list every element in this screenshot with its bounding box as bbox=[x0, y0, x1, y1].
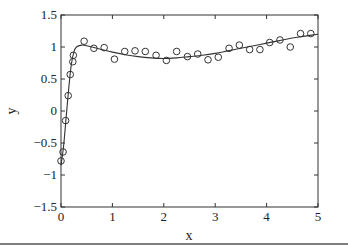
plot-frame bbox=[61, 15, 318, 207]
data-point-marker bbox=[70, 58, 77, 65]
plot-area bbox=[58, 15, 318, 207]
y-tick-label: −0.5 bbox=[33, 135, 57, 150]
data-point-marker bbox=[297, 30, 304, 37]
x-tick-label: 3 bbox=[212, 209, 219, 224]
chart: 012345 −1.5−1−0.500.511.5 x y bbox=[0, 0, 348, 248]
data-point-marker bbox=[215, 54, 222, 61]
data-point-marker bbox=[205, 57, 212, 64]
data-point-marker bbox=[236, 42, 243, 49]
data-point-marker bbox=[121, 48, 128, 55]
x-tick-label: 5 bbox=[315, 209, 322, 224]
data-point-marker bbox=[81, 38, 88, 45]
data-point-marker bbox=[153, 52, 160, 59]
data-point-marker bbox=[111, 56, 118, 63]
data-point-marker bbox=[257, 46, 264, 53]
y-axis: −1.5−1−0.500.511.5 bbox=[33, 7, 318, 214]
data-point-marker bbox=[308, 30, 315, 37]
y-tick-label: 1.5 bbox=[41, 7, 57, 22]
x-tick-label: 2 bbox=[161, 209, 168, 224]
x-axis: 012345 bbox=[58, 15, 322, 224]
y-tick-label: −1.5 bbox=[33, 199, 57, 214]
data-point-marker bbox=[132, 48, 139, 55]
y-tick-label: 0 bbox=[51, 103, 58, 118]
x-tick-label: 0 bbox=[58, 209, 65, 224]
data-point-marker bbox=[246, 46, 253, 53]
x-tick-label: 1 bbox=[109, 209, 116, 224]
x-tick-label: 4 bbox=[263, 209, 270, 224]
data-point-marker bbox=[142, 48, 149, 55]
data-point-marker bbox=[173, 48, 180, 55]
x-axis-label: x bbox=[186, 228, 193, 243]
y-axis-label: y bbox=[4, 108, 19, 115]
y-tick-label: 0.5 bbox=[41, 71, 57, 86]
y-tick-label: −1 bbox=[43, 167, 57, 182]
data-point-marker bbox=[287, 44, 294, 51]
y-tick-label: 1 bbox=[51, 39, 58, 54]
